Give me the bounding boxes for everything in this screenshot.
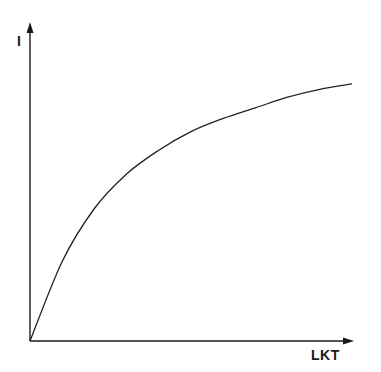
y-axis-arrow-icon: [27, 22, 34, 33]
x-axis-arrow-icon: [343, 338, 354, 345]
chart-canvas: [0, 0, 381, 372]
x-axis-label: LKT: [311, 347, 340, 363]
saturation-curve: [30, 84, 352, 341]
y-axis-label: I: [17, 33, 21, 49]
